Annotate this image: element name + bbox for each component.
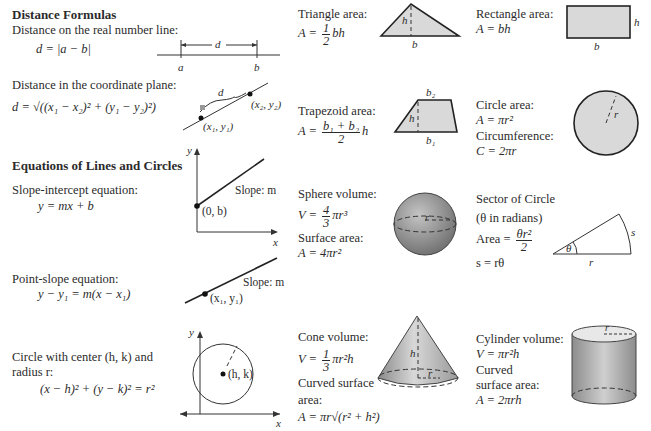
cylinder-r: r [605,322,609,333]
cylinder-diagram [0,0,651,431]
